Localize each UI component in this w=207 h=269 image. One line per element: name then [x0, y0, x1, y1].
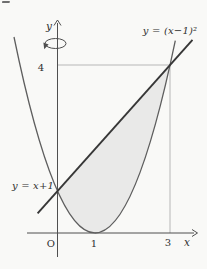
- parabola-equation-label: y = (x−1)²: [143, 26, 198, 36]
- math-figure: y y = (x−1)² 4 y = x+1 O 1 3 x: [0, 0, 207, 269]
- rotation-ellipse-icon: [45, 39, 66, 49]
- rotation-arrow-icon: [43, 42, 48, 49]
- origin-label: O: [47, 239, 55, 249]
- y-axis-label: y: [46, 21, 52, 32]
- x-tick-3-label: 3: [165, 238, 172, 248]
- x-axis-label: x: [184, 237, 190, 248]
- line-equation-label: y = x+1: [12, 181, 54, 191]
- y-tick-4-label: 4: [38, 63, 45, 73]
- shaded-region: [58, 65, 171, 233]
- x-tick-1-label: 1: [91, 239, 98, 249]
- plot-canvas: [0, 0, 207, 269]
